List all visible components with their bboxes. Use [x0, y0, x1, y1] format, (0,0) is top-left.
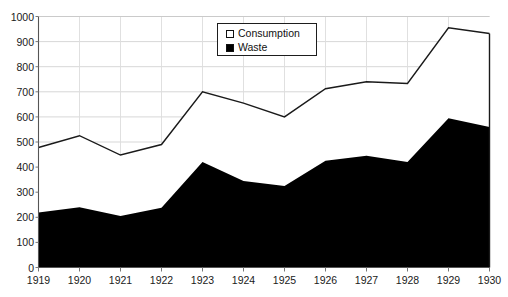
legend-label-consumption: Consumption — [238, 28, 300, 39]
filled-square-icon — [226, 44, 234, 52]
x-axis-tick-label: 1926 — [304, 275, 348, 286]
legend-label-waste: Waste — [238, 42, 267, 53]
y-axis-tick-label: 800 — [4, 62, 34, 73]
y-axis-tick-label: 300 — [4, 187, 34, 198]
x-axis-tick-label: 1924 — [222, 275, 266, 286]
x-axis-tick-label: 1919 — [17, 275, 61, 286]
y-axis-tick-label: 200 — [4, 212, 34, 223]
y-axis-tick-label: 0 — [4, 263, 34, 274]
x-axis-tick-label: 1920 — [58, 275, 102, 286]
y-axis-tick-label: 900 — [4, 37, 34, 48]
chart-container: 10009008007006005004003002001000 1919192… — [0, 0, 508, 297]
x-axis-tick-label: 1930 — [468, 275, 508, 286]
x-axis-tick-label: 1928 — [386, 275, 430, 286]
hollow-square-icon — [226, 30, 234, 38]
x-axis-tick-label: 1929 — [427, 275, 471, 286]
y-axis-tick-label: 100 — [4, 237, 34, 248]
x-axis-tick-label: 1925 — [263, 275, 307, 286]
y-axis-tick-label: 700 — [4, 87, 34, 98]
legend-item-waste: Waste — [226, 41, 316, 54]
chart-legend: Consumption Waste — [217, 23, 317, 56]
x-axis-tick-label: 1927 — [345, 275, 389, 286]
y-axis-tick-label: 400 — [4, 162, 34, 173]
x-axis-tick-label: 1922 — [140, 275, 184, 286]
y-axis-labels: 10009008007006005004003002001000 — [0, 0, 34, 297]
x-axis-tick-label: 1923 — [181, 275, 225, 286]
y-axis-tick-label: 500 — [4, 137, 34, 148]
y-axis-tick-label: 600 — [4, 112, 34, 123]
y-axis-tick-label: 1000 — [4, 12, 34, 23]
x-axis-tick-label: 1921 — [99, 275, 143, 286]
legend-item-consumption: Consumption — [226, 27, 316, 40]
